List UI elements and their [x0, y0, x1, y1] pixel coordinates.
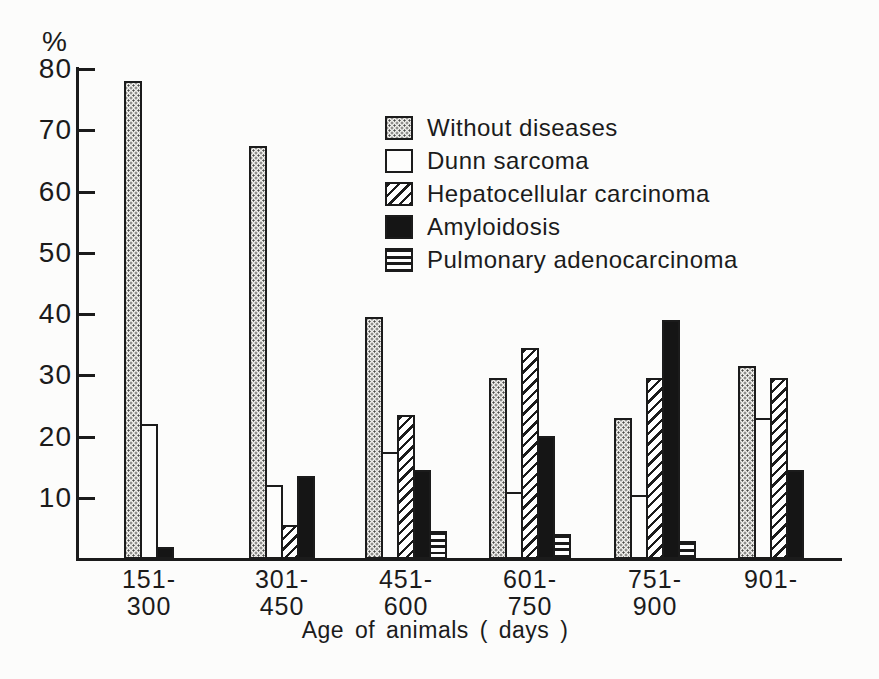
- x-tick-label-451-600: 451-600: [351, 566, 461, 620]
- legend-swatch-stipple-icon: [385, 116, 413, 140]
- x-tick-label-151-300: 151-300: [94, 566, 204, 620]
- figure: % 1020304050607080 151-300301-450451-600…: [0, 0, 879, 679]
- y-tick-60: [78, 191, 95, 194]
- y-tick-label-80: 80: [14, 54, 72, 84]
- y-tick-label-20: 20: [14, 422, 72, 452]
- legend-swatch-diagonal-hatch-icon: [385, 182, 413, 206]
- legend-label: Amyloidosis: [427, 213, 561, 241]
- x-axis-title: Age of animals ( days ): [135, 617, 735, 644]
- y-tick-40: [78, 313, 95, 316]
- legend-label: Dunn sarcoma: [427, 147, 589, 175]
- bar-amyloidosis-751-900: [662, 320, 680, 559]
- y-tick-20: [78, 436, 95, 439]
- x-tick-label-601-750: 601-750: [475, 566, 585, 620]
- x-axis-line: [76, 558, 842, 561]
- x-tick-label-901: 901-: [716, 566, 826, 593]
- bar-dunn-sarcoma-151-300: [140, 424, 158, 559]
- bar-amyloidosis-301-450: [297, 476, 315, 559]
- x-tick-label-751-900: 751-900: [600, 566, 710, 620]
- legend-swatch-horizontal-lines-icon: [385, 248, 413, 272]
- y-tick-30: [78, 374, 95, 377]
- x-tick-label-301-450: 301-450: [227, 566, 337, 620]
- legend-item-amyloidosis: Amyloidosis: [385, 213, 738, 241]
- y-tick-70: [78, 129, 95, 132]
- bar-amyloidosis-901: [786, 470, 804, 559]
- y-tick-label-60: 60: [14, 177, 72, 207]
- bar-pulmonary-adenocarcinoma-601-750: [553, 534, 571, 559]
- legend-item-without-diseases: Without diseases: [385, 114, 738, 142]
- y-tick-80: [78, 68, 95, 71]
- y-tick-label-30: 30: [14, 360, 72, 390]
- legend-label: Hepatocellular carcinoma: [427, 180, 710, 208]
- legend-label: Pulmonary adenocarcinoma: [427, 246, 738, 274]
- y-tick-10: [78, 497, 95, 500]
- y-tick-label-50: 50: [14, 238, 72, 268]
- bar-amyloidosis-151-300: [156, 547, 174, 559]
- legend-item-pulmonary-adenocarcinoma: Pulmonary adenocarcinoma: [385, 246, 738, 274]
- bar-pulmonary-adenocarcinoma-451-600: [429, 531, 447, 559]
- legend: Without diseasesDunn sarcomaHepatocellul…: [385, 114, 738, 274]
- y-tick-label-70: 70: [14, 115, 72, 145]
- y-tick-label-40: 40: [14, 299, 72, 329]
- y-tick-label-10: 10: [14, 483, 72, 513]
- bar-pulmonary-adenocarcinoma-751-900: [678, 541, 696, 559]
- y-tick-50: [78, 252, 95, 255]
- legend-item-dunn-sarcoma: Dunn sarcoma: [385, 147, 738, 175]
- legend-swatch-plain-icon: [385, 149, 413, 173]
- legend-label: Without diseases: [427, 114, 618, 142]
- legend-swatch-solid-black-icon: [385, 215, 413, 239]
- legend-item-hepatocellular-carcinoma: Hepatocellular carcinoma: [385, 180, 738, 208]
